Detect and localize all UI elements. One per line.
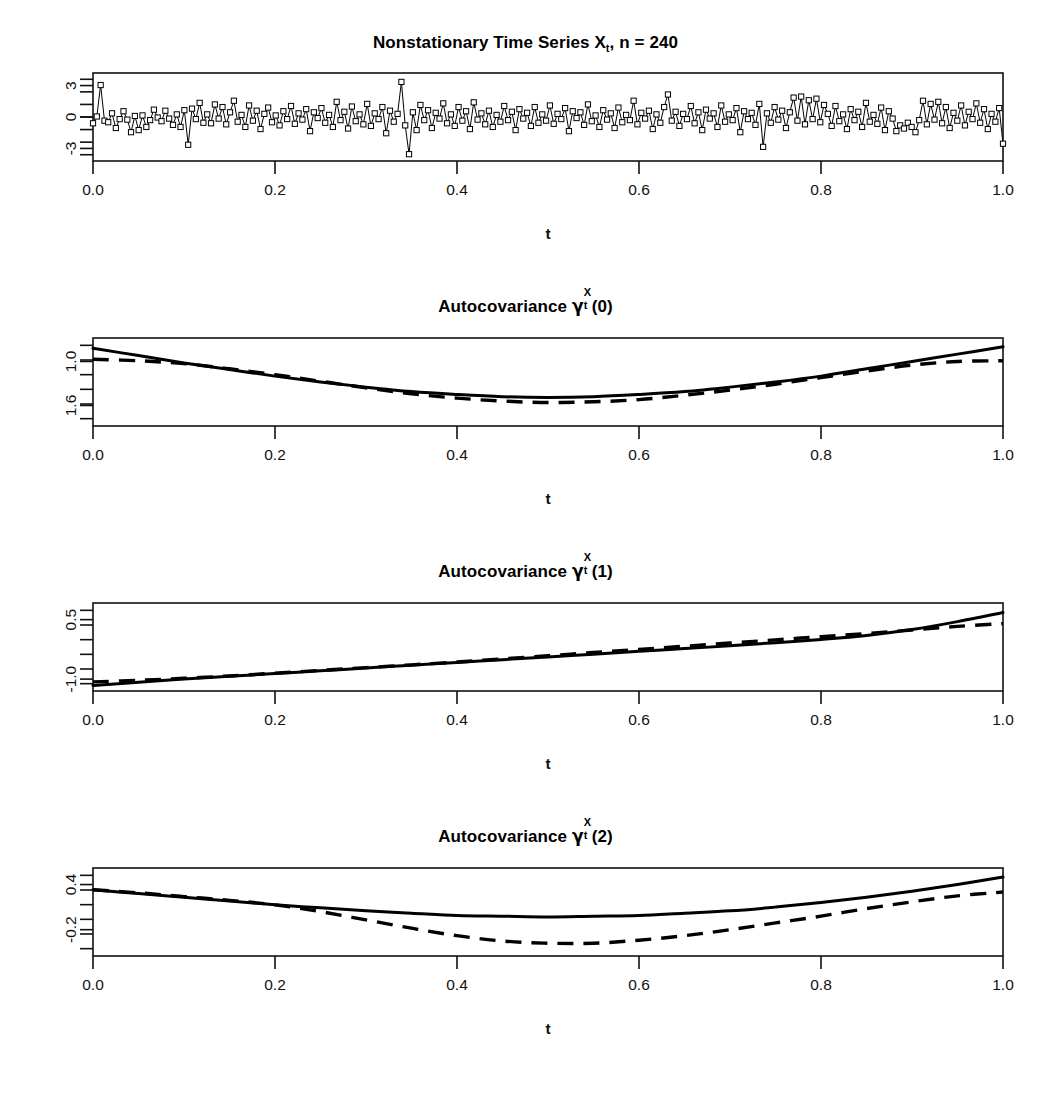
series-true [93,347,1003,398]
chart-time-series: 0.00.20.40.60.81.0t30-3 [0,65,1051,265]
x-tick-label: 0.6 [628,711,650,728]
panel-acov-2: Autocovariance γXt(2) 0.00.20.40.60.81.0… [0,795,1051,1095]
x-tick-label: 1.0 [992,446,1014,463]
x-axis-title: t [545,1020,550,1037]
y-tick-label: -3 [62,142,79,156]
gamma-indices: Xt [584,560,592,577]
title-subscript: t [584,300,588,311]
y-tick-label: -1.0 [62,665,79,692]
y-tick-label: 3 [62,81,79,90]
chart-acov-2: 0.00.20.40.60.81.0t0.4-0.2 [0,860,1051,1060]
x-tick-label: 0.0 [82,976,104,993]
y-tick-label: 1.6 [62,395,79,417]
title-superscript: X [584,817,591,828]
x-tick-label: 0.2 [264,711,286,728]
panel-acov-0: Autocovariance γXt(0) 0.00.20.40.60.81.0… [0,265,1051,530]
x-tick-label: 0.0 [82,711,104,728]
title-subscript: t [584,565,588,576]
x-tick-label: 0.2 [264,976,286,993]
y-tick-label: 0 [62,112,79,121]
x-tick-label: 0.0 [82,446,104,463]
panel-title-time-series: Nonstationary Time Series Xt, n = 240 [0,33,1051,54]
panel-title-acov-0: Autocovariance γXt(0) [0,295,1051,317]
title-text-prefix: Autocovariance [438,562,572,581]
title-text-suffix: (1) [592,562,613,581]
x-tick-label: 1.0 [992,711,1014,728]
y-tick-label: -0.2 [62,916,79,943]
x-tick-label: 0.6 [628,181,650,198]
x-tick-label: 0.4 [446,446,468,463]
x-tick-label: 0.4 [446,976,468,993]
x-tick-label: 0.0 [82,181,104,198]
x-tick-label: 0.8 [810,181,832,198]
panel-acov-1: Autocovariance γXt(1) 0.00.20.40.60.81.0… [0,530,1051,795]
title-superscript: X [584,287,591,298]
title-text-suffix: (2) [592,827,613,846]
gamma-symbol: γ [572,561,584,581]
panel-time-series: Nonstationary Time Series Xt, n = 240 0.… [0,0,1051,265]
title-superscript: X [584,552,591,563]
panel-title-acov-2: Autocovariance γXt(2) [0,825,1051,847]
x-tick-label: 0.2 [264,181,286,198]
figure-canvas: Nonstationary Time Series Xt, n = 240 0.… [0,0,1051,1095]
x-axis-title: t [545,490,550,507]
x-tick-label: 0.8 [810,976,832,993]
title-text-prefix: Autocovariance [438,297,572,316]
x-tick-label: 0.8 [810,446,832,463]
gamma-indices: Xt [584,825,592,842]
y-tick-label: 1.0 [62,350,79,372]
series-true [93,877,1003,917]
series-estimate [93,624,1003,682]
title-text-prefix: Nonstationary Time Series X [373,33,606,52]
x-tick-label: 0.6 [628,976,650,993]
y-tick-label: 0.5 [62,609,79,631]
x-axis-title: t [545,225,550,242]
title-subscript: t [584,830,588,841]
panel-title-acov-1: Autocovariance γXt(1) [0,560,1051,582]
y-tick-label: 0.4 [62,873,79,895]
gamma-symbol: γ [572,826,584,846]
chart-acov-1: 0.00.20.40.60.81.0t0.5-1.0 [0,595,1051,795]
title-text-suffix: , n = 240 [610,33,678,52]
gamma-symbol: γ [572,296,584,316]
x-tick-label: 1.0 [992,181,1014,198]
chart-acov-0: 0.00.20.40.60.81.0t1.61.0 [0,330,1051,530]
x-tick-label: 0.2 [264,446,286,463]
x-tick-label: 0.4 [446,711,468,728]
title-text-suffix: (0) [592,297,613,316]
x-tick-label: 1.0 [992,976,1014,993]
x-tick-label: 0.8 [810,711,832,728]
gamma-indices: Xt [584,295,592,312]
x-tick-label: 0.4 [446,181,468,198]
series-markers [90,79,1005,156]
x-tick-label: 0.6 [628,446,650,463]
title-text-prefix: Autocovariance [438,827,572,846]
x-axis-title: t [545,755,550,772]
